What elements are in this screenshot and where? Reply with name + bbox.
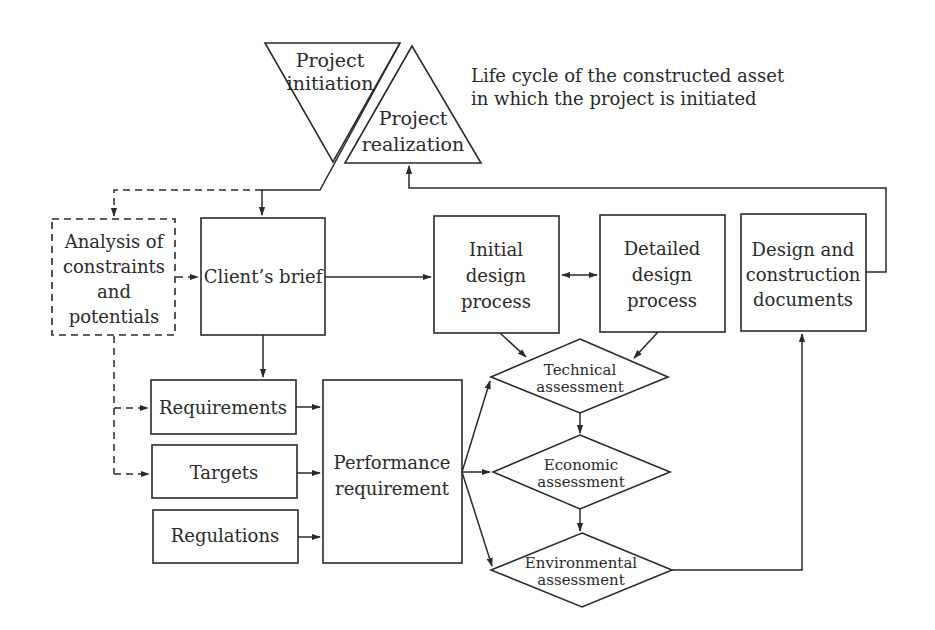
initial-design-label-3: process	[461, 291, 531, 312]
targets-label: Targets	[190, 462, 259, 483]
targets-node: Targets	[152, 445, 297, 498]
detailed-design-label-1: Detailed	[624, 238, 701, 259]
analysis-label-1: Analysis of	[64, 231, 165, 252]
economic-label-1: Economic	[544, 456, 619, 474]
technical-label-1: Technical	[544, 361, 617, 379]
project-initiation-label-1: Project	[296, 49, 365, 71]
caption: Life cycle of the constructed asset in w…	[471, 65, 785, 109]
analysis-label-2: constraints	[63, 256, 165, 277]
requirements-node: Requirements	[151, 380, 296, 434]
analysis-label-4: potentials	[69, 306, 160, 327]
economic-assessment-node: Economic assessment	[493, 435, 670, 509]
detailed-design-label-2: design	[632, 264, 693, 285]
initial-design-label-1: Initial	[469, 239, 523, 260]
project-initiation-label-2: initiation	[287, 72, 374, 94]
analysis-label-3: and	[97, 281, 131, 302]
performance-label-2: requirement	[335, 478, 450, 499]
initial-design-node: Initial design process	[434, 216, 559, 333]
edge-analysis-to-requirements-targets	[114, 336, 149, 474]
design-docs-label-2: construction	[746, 264, 861, 285]
performance-node: Performance requirement	[323, 380, 462, 563]
client-brief-node: Client’s brief	[201, 218, 325, 335]
design-docs-node: Design and construction documents	[741, 214, 866, 331]
edges-to-performance	[296, 407, 320, 537]
caption-line-1: Life cycle of the constructed asset	[471, 65, 785, 86]
caption-line-2: in which the project is initiated	[471, 88, 757, 109]
project-realization-label-2: realization	[362, 133, 465, 155]
edge-environmental-to-design-docs	[672, 334, 802, 570]
regulations-label: Regulations	[171, 525, 279, 546]
edges-performance-to-assessments	[462, 381, 492, 566]
project-realization-label-1: Project	[379, 107, 448, 129]
detailed-design-label-3: process	[627, 290, 697, 311]
requirements-label: Requirements	[159, 397, 287, 418]
regulations-node: Regulations	[153, 510, 298, 563]
technical-label-2: assessment	[536, 378, 623, 396]
client-brief-label: Client’s brief	[204, 266, 324, 287]
edge-initiation-to-analysis	[114, 190, 262, 216]
economic-label-2: assessment	[537, 473, 624, 491]
initial-design-label-2: design	[466, 265, 527, 286]
design-docs-label-1: Design and	[752, 239, 855, 260]
life-cycle-diagram: Project initiation Project realization L…	[0, 0, 935, 630]
environmental-assessment-node: Environmental assessment	[491, 533, 672, 607]
design-docs-label-3: documents	[753, 289, 853, 310]
environmental-label-2: assessment	[537, 571, 624, 589]
analysis-node: Analysis of constraints and potentials	[52, 219, 175, 335]
detailed-design-node: Detailed design process	[600, 215, 725, 332]
performance-label-1: Performance	[334, 452, 451, 473]
environmental-label-1: Environmental	[525, 554, 637, 572]
